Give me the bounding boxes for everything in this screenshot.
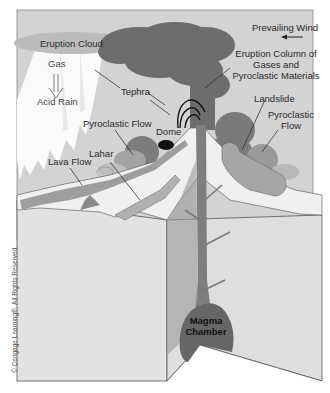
label-lahar: Lahar <box>89 148 113 159</box>
label-eruption-column-line2: Gases and <box>228 59 324 70</box>
label-eruption-cloud: Eruption Cloud <box>40 38 103 49</box>
label-pyroclastic-flow-right-line1: Pyroclastic <box>264 109 318 120</box>
ground-left-face <box>17 200 167 381</box>
label-pyroclastic-flow-right: Pyroclastic Flow <box>264 109 318 131</box>
label-tephra: Tephra <box>121 86 150 97</box>
label-magma-chamber-line2: Chamber <box>184 326 228 337</box>
label-pyroclastic-flow-right-line2: Flow <box>264 120 318 131</box>
label-gas: Gas <box>48 58 65 69</box>
copyright-notice: © Cengage Learning®. All Rights Reserved… <box>11 240 18 380</box>
label-pyroclastic-flow-left: Pyroclastic Flow <box>83 118 152 129</box>
label-prevailing-wind: Prevailing Wind <box>252 22 318 33</box>
label-landslide: Landslide <box>254 93 295 104</box>
label-eruption-column: Eruption Column of Gases and Pyroclastic… <box>228 48 324 81</box>
label-magma-chamber: Magma Chamber <box>184 315 228 337</box>
label-lava-flow: Lava Flow <box>48 156 91 167</box>
label-dome: Dome <box>156 126 181 137</box>
label-eruption-column-line1: Eruption Column of <box>228 48 324 59</box>
label-eruption-column-line3: Pyroclastic Materials <box>228 70 324 81</box>
dome <box>158 140 174 150</box>
volcano-diagram: Eruption Cloud Gas Acid Rain Tephra Prev… <box>0 0 330 393</box>
label-magma-chamber-line1: Magma <box>184 315 228 326</box>
label-acid-rain: Acid Rain <box>37 96 78 107</box>
